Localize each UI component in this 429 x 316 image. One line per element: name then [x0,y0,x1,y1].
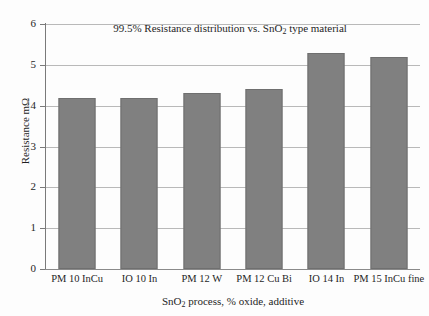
x-axis-label-5: PM 15 InCu fine [344,272,429,286]
bar-io-10-in [121,98,158,270]
y-tick-label-6: 6 [10,18,36,29]
bar-slot [295,24,357,269]
bar-pm-15-incu-fine [370,57,407,269]
y-tick-label-5: 5 [10,59,36,70]
bar-io-14-in [308,53,345,269]
bar-slot [108,24,170,269]
bar-pm-12-w [183,93,220,269]
bar-slot [171,24,233,269]
bar-slot [46,24,108,269]
x-axis-line [45,269,420,270]
x-axis-title-before: SnO [162,295,182,307]
bar-slot [358,24,420,269]
bar-slot [233,24,295,269]
x-axis-category-labels: PM 10 InCuIO 10 InPM 12 WPM 12 Cu BiIO 1… [46,272,420,288]
y-axis-title: Resistance mΩ [19,61,31,201]
bar-pm-12-cu-bi [246,89,283,269]
y-tick-label-4: 4 [10,100,36,111]
x-axis-title: SnO2 process, % oxide, additive [46,294,420,312]
y-tick-label-1: 1 [10,222,36,233]
x-axis-title-after: process, % oxide, additive [185,295,304,307]
y-tick-label-3: 3 [10,141,36,152]
bar-series [46,24,420,269]
y-tick-label-2: 2 [10,181,36,192]
bar-pm-10-incu [59,98,96,270]
bar-chart-figure: 99.5% Resistance distribution vs. SnO2 t… [0,0,429,316]
